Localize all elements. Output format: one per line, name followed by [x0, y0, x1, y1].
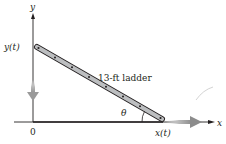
curve-mark [196, 87, 213, 100]
x-position-label: x(t) [155, 128, 171, 138]
angle-label: θ [121, 108, 127, 118]
y-position-label: y(t) [3, 42, 20, 52]
ladder [37, 47, 162, 119]
y-axis [31, 13, 35, 122]
right-motion-arrow-icon [166, 116, 202, 128]
ladder-label: 13-ft ladder [98, 73, 152, 83]
down-motion-arrow-icon [27, 80, 39, 101]
y-axis-label: y [29, 2, 36, 12]
x-axis-arrow-icon [208, 120, 215, 124]
x-axis-label: x [217, 118, 222, 128]
ladder-diagram: y x 0 y(t) x(t) 13-ft ladder θ [0, 0, 226, 144]
angle-arc [142, 112, 145, 123]
origin-label: 0 [30, 127, 36, 137]
y-axis-arrow-icon [31, 13, 35, 19]
